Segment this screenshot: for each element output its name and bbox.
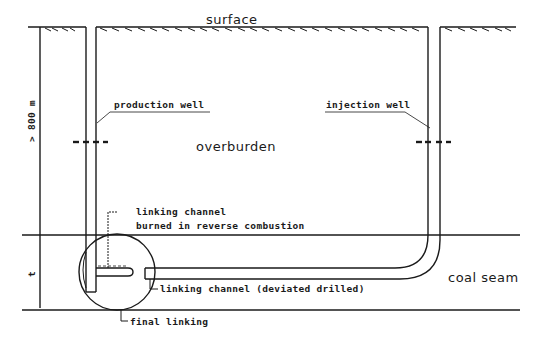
injection-well-label: injection well: [326, 100, 410, 110]
coal-seam-label: coal seam: [448, 271, 519, 284]
surface-label: surface: [206, 13, 258, 26]
leader-final-linking: [121, 310, 128, 321]
final-linking-circle: [79, 234, 155, 310]
depth-dimension-label: > 800 m: [27, 100, 37, 142]
injection-well-inner-curve: [145, 235, 428, 268]
leader-production-well: [97, 112, 210, 123]
diagram-drawing: [0, 0, 547, 346]
leader-injection-well: [325, 112, 430, 128]
injection-well-outer-curve: [145, 240, 440, 279]
ucg-well-diagram: surface overburden coal seam production …: [0, 0, 547, 346]
overburden-label: overburden: [196, 140, 276, 153]
seam-thickness-label: t: [27, 271, 37, 277]
surface-hatching: [45, 28, 511, 31]
linking-channel-reverse-label-line2: burned in reverse combustion: [136, 221, 305, 231]
linking-channel-deviated-label: linking channel (deviated drilled): [160, 284, 365, 294]
final-linking-label: final linking: [130, 317, 208, 327]
production-well-label: production well: [114, 100, 204, 110]
leader-linking-reverse: [108, 212, 118, 268]
linking-channel-reverse-label-line1: linking channel: [136, 207, 226, 217]
reverse-combustion-channel: [96, 268, 133, 276]
